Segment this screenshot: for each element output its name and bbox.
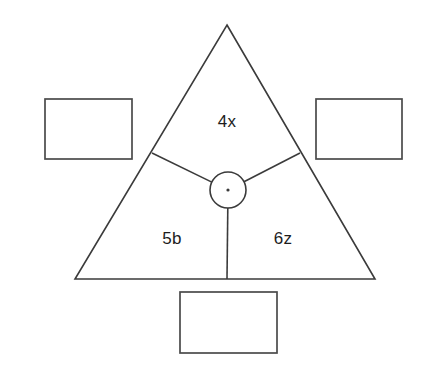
angle-label-bottom-left: 5b [162,229,181,248]
angle-label-bottom-right: 6z [274,229,292,248]
center-vertex-dot [226,188,229,191]
diagram-canvas: 4x 5b 6z [0,0,421,377]
answer-box-bottom[interactable] [180,292,277,353]
answer-box-right[interactable] [316,99,402,159]
answer-box-left[interactable] [45,99,132,159]
ray-down-line [227,208,228,279]
geometry-figure: 4x 5b 6z [0,0,421,377]
angle-label-top: 4x [218,112,237,131]
